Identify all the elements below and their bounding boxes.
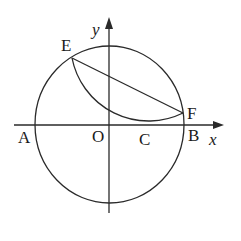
chord-ef <box>72 58 183 113</box>
geometry-diagram: A O C B E F x y <box>0 0 241 241</box>
x-axis-arrow-icon <box>213 121 224 129</box>
point-label-o: O <box>92 127 104 146</box>
point-label-c: C <box>139 130 150 149</box>
point-label-b: B <box>188 126 199 145</box>
y-axis-arrow-icon <box>105 17 113 29</box>
point-label-a: A <box>18 128 31 147</box>
y-axis-label: y <box>90 20 100 39</box>
folded-arc-ef <box>72 58 183 121</box>
point-label-f: F <box>187 104 196 123</box>
point-label-e: E <box>61 36 71 55</box>
x-axis-label: x <box>208 130 217 149</box>
diagram-svg: A O C B E F x y <box>0 0 241 241</box>
